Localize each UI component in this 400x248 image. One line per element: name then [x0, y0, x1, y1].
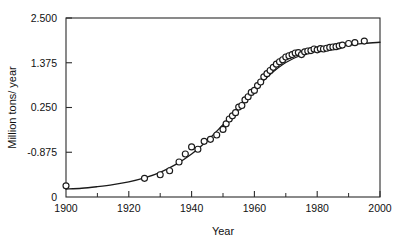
data-point	[220, 126, 226, 132]
data-point	[201, 138, 207, 144]
data-point	[182, 151, 188, 157]
data-point	[214, 132, 220, 138]
y-tick-label: 0	[51, 191, 57, 203]
data-point	[233, 110, 239, 116]
data-point	[63, 183, 69, 189]
y-axis-title: Million tons/ year	[6, 66, 18, 149]
data-point	[189, 144, 195, 150]
data-point	[346, 40, 352, 46]
data-point	[339, 42, 345, 48]
fit-curve	[66, 42, 380, 189]
data-point	[167, 168, 173, 174]
data-point	[352, 40, 358, 46]
y-tick-label: 0.250	[31, 101, 57, 113]
data-point	[195, 146, 201, 152]
y-tick-label: 2.500	[31, 12, 57, 24]
x-tick-label: 1940	[180, 202, 204, 214]
x-tick-label: 2000	[368, 202, 392, 214]
data-point	[157, 172, 163, 178]
data-point	[207, 136, 213, 142]
y-tick-label: -0.875	[27, 146, 57, 158]
y-tick-label: 1.375	[31, 57, 57, 69]
data-point	[142, 175, 148, 181]
x-tick-label: 1920	[117, 202, 141, 214]
x-tick-label: 1960	[243, 202, 267, 214]
data-point	[176, 159, 182, 165]
chart-figure: 0-0.8750.2501.3752.500190019201940196019…	[0, 0, 400, 248]
x-axis-title: Year	[212, 225, 235, 237]
data-point	[361, 38, 367, 44]
x-tick-label: 1900	[54, 202, 78, 214]
data-point	[239, 103, 245, 109]
x-tick-label: 1980	[306, 202, 330, 214]
